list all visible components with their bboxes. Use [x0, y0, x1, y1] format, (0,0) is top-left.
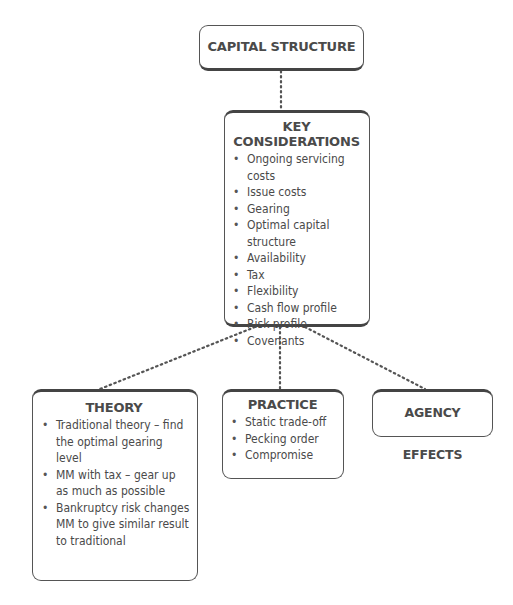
practice-list: Static trade-off Pecking order Compromis…: [226, 414, 339, 464]
key-considerations-title: KEY CONSIDERATIONS: [228, 119, 365, 149]
theory-list: Traditional theory – find the optimal ge…: [37, 417, 191, 549]
list-item: Cash flow profile: [228, 300, 365, 317]
list-item: Traditional theory – find the optimal ge…: [37, 417, 191, 467]
capital-structure-title: CAPITAL STRUCTURE: [200, 26, 363, 68]
list-item: Pecking order: [226, 431, 339, 448]
list-item: Availability: [228, 250, 365, 267]
list-item: Tax: [228, 267, 365, 284]
agency-effects-box: AGENCY EFFECTS: [372, 389, 493, 437]
list-item: Issue costs: [228, 184, 365, 201]
list-item: Bankruptcy risk changes MM to give simil…: [37, 500, 191, 550]
list-item: Covenants: [228, 333, 365, 350]
list-item: Gearing: [228, 201, 365, 218]
theory-title: THEORY: [37, 400, 191, 415]
list-item: Flexibility: [228, 283, 365, 300]
capital-structure-box: CAPITAL STRUCTURE: [199, 25, 364, 71]
list-item: MM with tax – gear up as much as possibl…: [37, 467, 191, 500]
practice-box: PRACTICE Static trade-off Pecking order …: [222, 389, 344, 479]
key-considerations-box: KEY CONSIDERATIONS Ongoing servicing cos…: [224, 110, 370, 327]
key-considerations-list: Ongoing servicing costs Issue costs Gear…: [228, 151, 365, 349]
agency-effects-title: AGENCY EFFECTS: [373, 392, 492, 476]
list-item: Ongoing servicing costs: [228, 151, 365, 184]
list-item: Optimal capital structure: [228, 217, 365, 250]
list-item: Static trade-off: [226, 414, 339, 431]
practice-title: PRACTICE: [226, 397, 339, 412]
list-item: Compromise: [226, 447, 339, 464]
list-item: Risk profile: [228, 316, 365, 333]
theory-box: THEORY Traditional theory – find the opt…: [32, 389, 198, 581]
